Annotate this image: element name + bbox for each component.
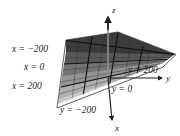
x-axis-label: x	[114, 123, 119, 133]
shading-band-1	[66, 32, 176, 55]
z-axis-label: z	[111, 5, 116, 15]
label-y-200: y = 200	[127, 65, 158, 75]
label-x-200: x = 200	[11, 81, 42, 91]
surface-mesh	[57, 32, 176, 108]
label-x-0: x = 0	[23, 62, 44, 72]
label-x-neg200: x = −200	[11, 44, 48, 54]
label-y-0: y = 0	[111, 84, 132, 94]
surface-plot-figure: z y x x = −200 x = 0 x = 200 y = 200 y =…	[0, 0, 180, 136]
label-y-neg200: y = −200	[59, 105, 96, 115]
y-axis-label: y	[165, 73, 170, 83]
